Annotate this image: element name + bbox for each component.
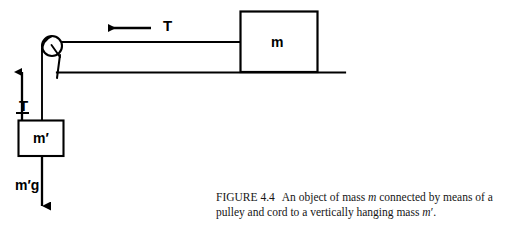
- label-weight-m-prime-g: m′g: [15, 178, 39, 192]
- caption-text-1: An object of mass: [282, 191, 368, 203]
- pulley-bracket: [57, 55, 60, 78]
- label-tension-vertical: T: [19, 98, 28, 113]
- figure-container: T T m m′ m′g FIGURE 4.4An object of mass…: [0, 0, 520, 229]
- label-tension-horizontal: T: [163, 18, 172, 33]
- label-mass-m-prime: m′: [33, 131, 49, 145]
- figure-caption: FIGURE 4.4An object of mass m connected …: [216, 190, 516, 220]
- label-mass-m: m: [271, 35, 283, 49]
- figure-number: FIGURE 4.4: [216, 191, 275, 203]
- caption-text-3: .: [433, 206, 436, 218]
- caption-symbol-m-prime: m: [422, 206, 430, 218]
